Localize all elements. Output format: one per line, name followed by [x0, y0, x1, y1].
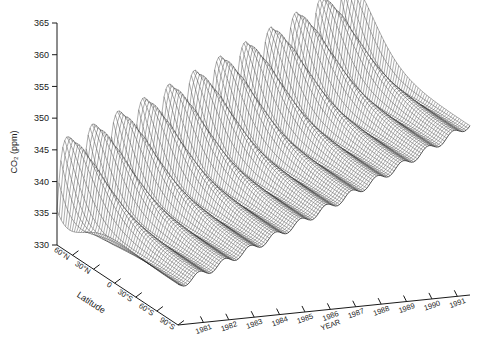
z-tick-label: 335: [34, 208, 49, 218]
chart-canvas: 330335340345350355360365CO₂ (ppm)60°N30°…: [0, 0, 492, 358]
co2-surface-chart: 330335340345350355360365CO₂ (ppm)60°N30°…: [0, 0, 492, 358]
z-tick-label: 355: [34, 82, 49, 92]
z-tick-label: 345: [34, 145, 49, 155]
z-tick-label: 365: [34, 18, 49, 28]
z-axis-label: CO₂ (ppm): [9, 131, 19, 174]
z-tick-label: 360: [34, 50, 49, 60]
z-tick-label: 350: [34, 113, 49, 123]
z-tick-label: 340: [34, 177, 49, 187]
z-tick-label: 330: [34, 240, 49, 250]
